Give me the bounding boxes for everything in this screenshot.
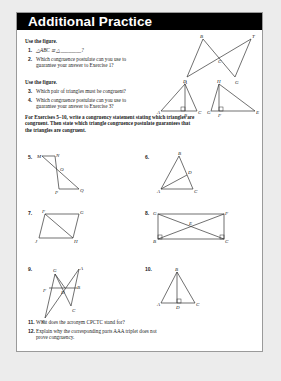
svg-text:G: G (153, 211, 157, 216)
exercise-text-cont: guarantee your answer to Exercise 3? (36, 103, 114, 109)
figure-6: BDAC (157, 153, 207, 195)
exercise-number: 3. (28, 88, 36, 94)
svg-text:E: E (255, 110, 259, 115)
svg-text:D: D (175, 305, 180, 310)
svg-text:C: C (194, 189, 198, 194)
svg-text:F: F (41, 209, 46, 214)
figure-7: FGJH (37, 210, 87, 252)
svg-text:P: P (54, 190, 58, 195)
svg-text:C: C (72, 308, 76, 313)
svg-text:C: C (198, 110, 202, 115)
instruction-line: the triangles are congruent. (25, 127, 86, 133)
exercise-text: What does the acronym CPCTC stand for? (36, 319, 125, 325)
exercise-number: 11. (28, 319, 36, 325)
figure-9: GAFDBCE (41, 266, 86, 321)
header-bar: Additional Practice (17, 13, 262, 30)
svg-text:O: O (60, 167, 64, 172)
figure-1-2: BTCAG (183, 33, 263, 88)
exercise-number: 2. (28, 56, 36, 62)
exercise-text: Which pair of triangles must be congruen… (36, 88, 126, 94)
exercise-text: Which congruence postulate can you use t… (36, 56, 126, 62)
worksheet-page: Additional Practice Use the figure. 1.△A… (16, 12, 263, 352)
svg-text:C: C (225, 239, 229, 244)
svg-text:H: H (216, 79, 221, 84)
section1-instruction: Use the figure. (25, 38, 57, 44)
svg-text:A: A (79, 266, 84, 271)
svg-text:J: J (35, 239, 38, 244)
section2-instruction: Use the figure. (25, 79, 57, 85)
figure-5: MNOPQ (37, 153, 87, 195)
exercise-text-cont: guarantee your answer to Exercise 1? (36, 62, 114, 68)
exercise-2: 2.Which congruence postulate can you use… (28, 56, 126, 69)
svg-text:C: C (196, 302, 200, 307)
exercise-number: 4. (28, 97, 36, 103)
exercise-text: △ABC ≅ △________? (36, 47, 84, 53)
exercise-1: 1.△ABC ≅ △________? (28, 47, 84, 53)
svg-text:D: D (187, 170, 192, 175)
svg-text:F: F (42, 288, 47, 293)
svg-text:F: F (217, 113, 222, 118)
svg-text:D: D (60, 290, 65, 295)
exercise-text: Which congruence postulate can you use t… (36, 97, 126, 103)
exercise-5-number: 5. (28, 154, 32, 160)
exercise-text: Explain why the corresponding parts AAA … (36, 328, 157, 334)
svg-text:B: B (175, 267, 178, 272)
instruction-line: congruent. Then state which triangle con… (25, 120, 190, 126)
svg-text:G: G (80, 210, 84, 215)
svg-text:F: F (224, 211, 229, 216)
svg-text:B: B (200, 34, 203, 39)
svg-text:G: G (53, 268, 57, 273)
section3-instructions: For Exercises 5–10, write a congruency s… (25, 114, 194, 133)
svg-text:Q: Q (80, 188, 84, 193)
exercise-12: 12.Explain why the corresponding parts A… (28, 328, 157, 341)
figure-8: GFEBC (153, 210, 233, 246)
svg-text:T: T (252, 34, 256, 39)
svg-text:E: E (188, 221, 192, 226)
exercise-9-number: 9. (28, 266, 32, 272)
page-title: Additional Practice (28, 13, 152, 30)
svg-text:B: B (153, 239, 156, 244)
svg-text:B: B (178, 151, 181, 156)
exercise-10-number: 10. (145, 266, 152, 272)
svg-text:N: N (55, 153, 60, 158)
exercise-11: 11.What does the acronym CPCTC stand for… (28, 319, 125, 325)
svg-text:D: D (182, 79, 187, 84)
figure-3-4: DHABCGFE (157, 81, 262, 117)
exercise-6-number: 6. (145, 154, 149, 160)
exercise-text-cont: prove congruency. (36, 334, 74, 340)
exercise-8-number: 8. (145, 210, 149, 216)
exercise-7-number: 7. (28, 210, 32, 216)
svg-text:H: H (73, 239, 78, 244)
exercise-number: 1. (28, 47, 36, 53)
svg-text:G: G (207, 110, 211, 115)
exercise-3: 3.Which pair of triangles must be congru… (28, 88, 126, 94)
exercise-4: 4.Which congruence postulate can you use… (28, 97, 126, 110)
exercise-number: 12. (28, 328, 36, 334)
svg-text:B: B (77, 285, 80, 290)
instruction-line: For Exercises 5–10, write a congruency s… (25, 114, 194, 120)
svg-text:A: A (156, 302, 161, 307)
svg-text:A: A (156, 189, 161, 194)
svg-text:C: C (218, 59, 222, 64)
figure-10: BADC (157, 269, 202, 309)
svg-text:M: M (36, 154, 42, 159)
